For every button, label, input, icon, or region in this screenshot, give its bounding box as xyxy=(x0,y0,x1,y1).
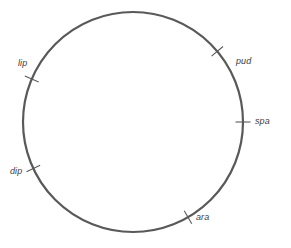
circle-diagram-svg xyxy=(0,0,291,248)
label-ara: ara xyxy=(196,212,209,222)
main-circle xyxy=(23,12,243,232)
label-dip: dip xyxy=(10,166,22,176)
tick-mark-ara xyxy=(184,211,192,224)
label-lip: lip xyxy=(18,58,27,68)
circle-diagram: lippudspaaradip xyxy=(0,0,291,248)
label-spa: spa xyxy=(255,116,270,126)
tick-mark-group xyxy=(25,46,251,223)
label-pud: pud xyxy=(236,56,251,66)
